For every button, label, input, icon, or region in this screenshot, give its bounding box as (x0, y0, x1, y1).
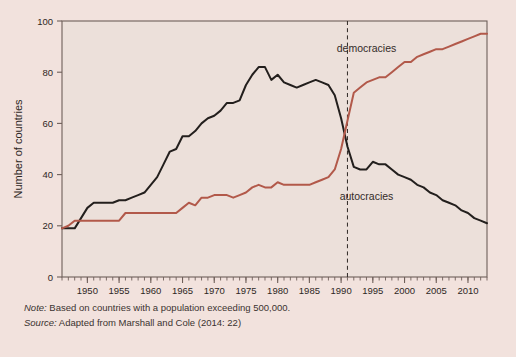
note-text: Based on countries with a population exc… (47, 302, 290, 313)
x-tick-label: 1995 (362, 285, 383, 296)
y-tick-label: 80 (42, 67, 53, 78)
x-tick-label: 1965 (172, 285, 193, 296)
x-tick-label: 1955 (109, 285, 130, 296)
x-axis-tick-labels: 1950195519601965197019751980198519901995… (77, 285, 479, 296)
y-tick-label: 40 (42, 169, 53, 180)
figure-container: 020406080100 195019551960196519701975198… (0, 0, 516, 357)
y-axis-title: Number of countries (12, 99, 24, 199)
x-tick-label: 2010 (457, 285, 478, 296)
figure-notes: Note: Based on countries with a populati… (24, 300, 494, 330)
x-tick-label: 1985 (299, 285, 320, 296)
source-label: Source: (24, 317, 57, 328)
plot-background (62, 21, 487, 277)
y-tick-label: 60 (42, 118, 53, 129)
x-tick-label: 2000 (394, 285, 415, 296)
x-tick-label: 1970 (204, 285, 225, 296)
x-tick-label: 1960 (140, 285, 161, 296)
x-tick-label: 1980 (267, 285, 288, 296)
x-tick-label: 1950 (77, 285, 98, 296)
y-tick-label: 20 (42, 220, 53, 231)
x-tick-label: 1975 (235, 285, 256, 296)
y-axis-tick-labels: 020406080100 (37, 16, 53, 283)
source-row: Source: Adapted from Marshall and Cole (… (24, 315, 494, 330)
x-tick-label: 2005 (426, 285, 447, 296)
source-text: Adapted from Marshall and Cole (2014: 22… (57, 317, 241, 328)
y-tick-label: 0 (48, 272, 53, 283)
note-row: Note: Based on countries with a populati… (24, 300, 494, 315)
annotation-democracies: democracies (337, 42, 397, 54)
annotation-autocracies: autocracies (340, 190, 394, 202)
note-label: Note: (24, 302, 47, 313)
y-tick-label: 100 (37, 16, 53, 27)
x-tick-label: 1990 (331, 285, 352, 296)
y-axis-ticks (57, 21, 62, 277)
